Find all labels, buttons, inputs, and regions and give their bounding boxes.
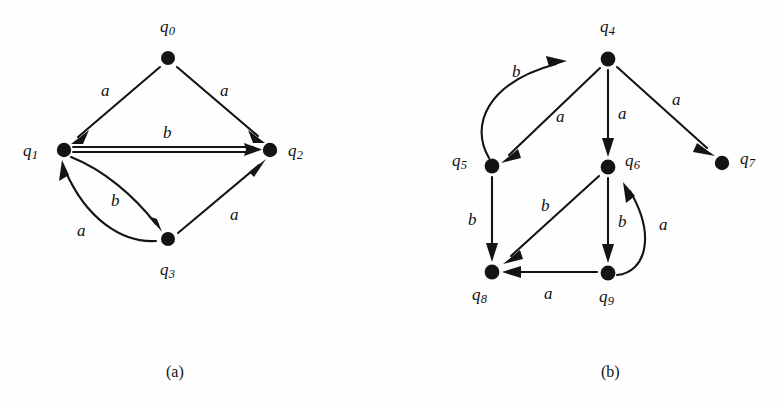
state-label-q3: q3 <box>160 261 175 278</box>
edge-label-q0-q1: a <box>101 82 110 99</box>
edge-label-q5-q8: b <box>468 211 477 228</box>
state-label-q4: q4 <box>600 18 615 35</box>
edge-q5-q4 <box>482 56 567 158</box>
edge-label-q3-q1: a <box>77 222 86 239</box>
edge-label-q6-q8: b <box>541 197 550 214</box>
edge-q4-q5 <box>501 68 600 163</box>
node-q0 <box>161 51 175 65</box>
edge-label-q5-q4: b <box>512 63 521 80</box>
state-label-q2: q2 <box>288 142 303 159</box>
edge-q9-q8 <box>502 266 597 278</box>
edge-label-q6-q9: b <box>618 213 627 230</box>
edge-q3-q2 <box>178 159 266 233</box>
edge-label-q1-q2: b <box>163 124 172 141</box>
node-q1 <box>57 143 71 157</box>
node-q6 <box>601 160 616 175</box>
node-q8 <box>485 265 500 280</box>
state-label-q9: q9 <box>599 288 614 305</box>
edge-label-q9-q8: a <box>544 285 553 302</box>
edge-q4-q7 <box>617 67 715 156</box>
edge-label-q4-q6: a <box>618 105 627 122</box>
node-q5 <box>485 159 500 174</box>
edge-q0-q1 <box>71 67 160 144</box>
node-q3 <box>161 232 175 246</box>
edge-q5-q8 <box>486 177 498 262</box>
node-q9 <box>601 266 616 281</box>
state-label-q5: q5 <box>452 152 467 169</box>
state-label-q8: q8 <box>472 286 487 303</box>
state-label-q7: q7 <box>740 150 755 167</box>
caption-panel-a: (a) <box>166 364 184 380</box>
edge-q6-q8 <box>503 176 599 264</box>
node-q4 <box>601 52 616 67</box>
state-label-q0: q0 <box>160 18 175 35</box>
node-q7 <box>715 156 729 170</box>
state-label-q6: q6 <box>625 152 640 169</box>
edge-label-q0-q2: a <box>220 82 229 99</box>
edge-q3-q1 <box>59 160 156 241</box>
edge-q4-q6 <box>602 70 614 157</box>
caption-panel-b: (b) <box>601 364 620 380</box>
figure-page: q0 q1 q2 q3 a a b b a a q4 q5 q6 q7 q8 q… <box>0 0 784 409</box>
edge-q6-q9 <box>602 178 614 263</box>
panel-a-nodes <box>57 51 277 246</box>
edge-q0-q2 <box>177 67 265 143</box>
edge-label-q4-q5: a <box>556 108 565 125</box>
node-q2 <box>263 143 277 157</box>
edge-label-q9-q6: a <box>659 216 668 233</box>
edge-label-q3-q2: a <box>230 206 239 223</box>
edge-label-q4-q7: a <box>672 91 681 108</box>
edge-label-q1-q3: b <box>111 192 120 209</box>
edge-q1-q2 <box>73 143 262 156</box>
state-label-q1: q1 <box>23 142 38 159</box>
